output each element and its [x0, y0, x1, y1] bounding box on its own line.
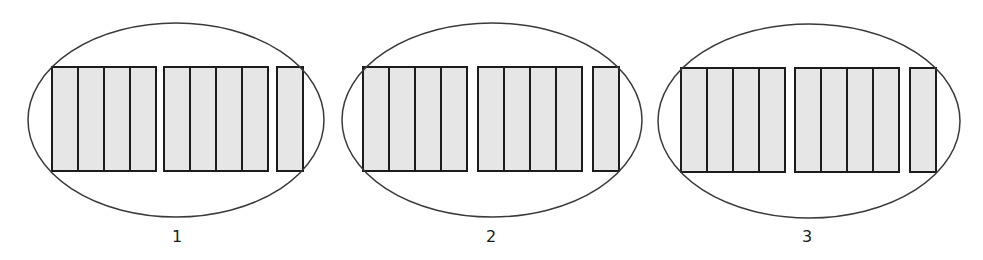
tenth-bar: [707, 68, 733, 172]
tenth-bar: [873, 68, 899, 172]
tenth-bar: [593, 67, 619, 171]
tenth-bar: [556, 67, 582, 171]
tenth-bar: [441, 67, 467, 171]
tenth-bar: [504, 67, 530, 171]
tenth-bar: [681, 68, 707, 172]
tenth-bar: [821, 68, 847, 172]
tenth-bar: [216, 67, 242, 171]
tenth-bar: [530, 67, 556, 171]
tenth-bar: [190, 67, 216, 171]
tenth-bar: [847, 68, 873, 172]
tenth-bar: [104, 67, 130, 171]
set-1: [28, 23, 324, 217]
tenth-bar: [415, 67, 441, 171]
diagram-canvas: 1 2 3: [0, 0, 983, 260]
tenth-bar: [389, 67, 415, 171]
diagram-svg: [0, 0, 983, 260]
tenth-bar: [733, 68, 759, 172]
tenth-bar: [363, 67, 389, 171]
tenth-bar: [277, 67, 303, 171]
tenth-bar: [52, 67, 78, 171]
tenth-bar: [78, 67, 104, 171]
tenth-bar: [164, 67, 190, 171]
tenth-bar: [130, 67, 156, 171]
tenth-bar: [759, 68, 785, 172]
group-label-2: 2: [486, 229, 496, 245]
group-label-3: 3: [802, 229, 812, 245]
tenth-bar: [795, 68, 821, 172]
set-2: [342, 23, 642, 217]
group-label-1: 1: [172, 229, 182, 245]
tenth-bar: [910, 68, 936, 172]
set-3: [658, 24, 960, 218]
tenth-bar: [478, 67, 504, 171]
tenth-bar: [242, 67, 268, 171]
